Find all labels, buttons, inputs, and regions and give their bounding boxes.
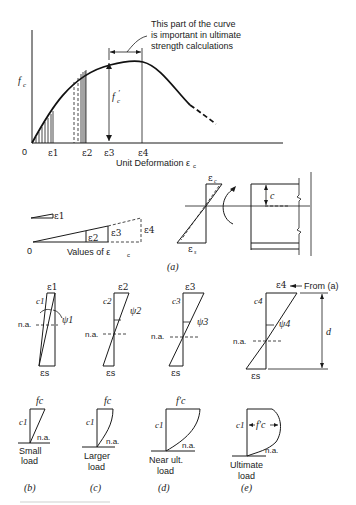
svg-text:εs: εs	[106, 368, 116, 378]
svg-text:c1: c1	[155, 420, 164, 430]
svg-text:c: c	[117, 97, 121, 105]
svg-text:c1: c1	[19, 417, 28, 427]
svg-text:c1: c1	[36, 296, 45, 306]
eps1-triangle	[31, 214, 53, 218]
values-axis-label: Values of ε	[67, 247, 110, 257]
svg-text:load: load	[157, 466, 174, 476]
svg-text:n.a.: n.a.	[37, 433, 50, 442]
svg-text:ε2: ε2	[88, 233, 98, 243]
stress-strain-curve	[32, 61, 190, 143]
strain-profile-4: ε4 From (a) c4 ψ4 n.a. εs d	[233, 280, 339, 381]
svg-text:c: c	[270, 190, 275, 201]
svg-text:ε4: ε4	[276, 280, 287, 290]
tick-eps2: ε2	[82, 148, 92, 158]
hatch-region-eps1	[36, 111, 53, 143]
svg-text:ε3: ε3	[185, 282, 196, 292]
svg-text:ε2: ε2	[118, 282, 128, 292]
x-axis-label: Unit Deformation ε	[116, 158, 190, 168]
svg-text:′: ′	[118, 89, 120, 98]
svg-text:ψ4: ψ4	[279, 318, 290, 329]
svg-text:Near ult.: Near ult.	[149, 455, 183, 465]
svg-text:c4: c4	[254, 296, 263, 306]
svg-text:n.a.: n.a.	[233, 337, 246, 346]
moment-arrow	[223, 190, 233, 224]
svg-text:f′c: f′c	[256, 419, 266, 430]
svg-text:c2: c2	[103, 296, 112, 306]
svg-text:c: c	[193, 163, 196, 169]
svg-text:f′c: f′c	[176, 395, 186, 406]
svg-text:Ultimate: Ultimate	[230, 460, 263, 470]
svg-text:s: s	[194, 249, 197, 255]
hatch-region-eps2	[74, 70, 86, 143]
svg-text:ψ2: ψ2	[130, 305, 141, 316]
stress-block-near-ultimate: f′c c1 n.a. Near ult. load (d)	[149, 395, 200, 494]
svg-text:c1: c1	[236, 420, 245, 430]
panel-a-label: (a)	[167, 261, 179, 273]
annotation-leader	[127, 36, 147, 52]
stress-block-ultimate: c1 f′c n.a. Ultimate load (e)	[230, 409, 281, 494]
svg-text:f: f	[112, 91, 116, 102]
tick-eps4: ε4	[138, 148, 149, 158]
annotation-text-1: This part of the curve	[151, 19, 236, 29]
svg-text:n.a.: n.a.	[182, 441, 195, 450]
panel-d-label: (d)	[158, 482, 170, 494]
tick-eps1: ε1	[48, 148, 58, 158]
curve-dashed-tail	[190, 105, 216, 124]
svg-text:ε4: ε4	[144, 225, 155, 235]
stress-block-small-load: fc c1 n.a. Small load (b)	[18, 395, 50, 494]
svg-text:n.a.: n.a.	[106, 437, 119, 446]
svg-text:fc: fc	[36, 395, 44, 406]
svg-text:ε: ε	[188, 244, 193, 254]
annotation-text-3: strength calculations	[151, 41, 234, 51]
svg-text:fc: fc	[104, 395, 112, 406]
svg-text:0: 0	[27, 246, 32, 256]
svg-text:ψ3: ψ3	[197, 316, 208, 327]
y-axis-label: f	[18, 75, 22, 86]
svg-text:ε1: ε1	[54, 211, 64, 221]
svg-text:c: c	[23, 81, 27, 89]
svg-text:εs: εs	[40, 368, 50, 378]
svg-text:d: d	[326, 326, 332, 337]
beam-section: ε c ε s c	[177, 172, 311, 256]
svg-text:ψ1: ψ1	[62, 314, 73, 325]
stress-strain-graph: f c f c ′	[18, 19, 283, 169]
strain-values-triangles: ε1 ε2 ε3 ε4 0 Values of ε c	[27, 211, 155, 258]
svg-text:Small: Small	[19, 446, 42, 456]
svg-text:load: load	[21, 456, 38, 466]
origin-label: 0	[22, 147, 27, 157]
strain-profile-1: ε1 c1 ψ1 n.a. εs	[18, 282, 73, 378]
svg-text:n.a.: n.a.	[151, 332, 164, 341]
panel-c-label: (c)	[90, 482, 102, 494]
from-a-label: From (a)	[304, 281, 339, 291]
annotation-text-2: is important in ultimate	[151, 30, 241, 40]
stress-block-larger-load: fc c1 n.a. Larger load (c)	[82, 395, 119, 494]
tick-eps3: ε3	[104, 148, 115, 158]
strain-profile-2: ε2 c2 ψ2 n.a. εs	[85, 282, 141, 378]
svg-text:c3: c3	[172, 296, 181, 306]
svg-text:εs: εs	[171, 368, 181, 378]
svg-text:c1: c1	[86, 417, 95, 427]
svg-text:n.a.: n.a.	[18, 320, 31, 329]
svg-text:ε: ε	[208, 173, 213, 183]
svg-text:c: c	[127, 252, 130, 258]
svg-text:n.a.: n.a.	[265, 446, 278, 455]
svg-text:c: c	[214, 178, 217, 184]
svg-text:load: load	[88, 462, 105, 472]
panel-e-label: (e)	[241, 482, 253, 494]
strain-profile-3: ε3 c3 ψ3 n.a. εs	[151, 282, 208, 378]
stress-strain-diagram: f c f c ′	[0, 0, 356, 505]
svg-text:ε3: ε3	[111, 228, 122, 238]
svg-text:n.a.: n.a.	[85, 330, 98, 339]
panel-b-label: (b)	[24, 482, 36, 494]
svg-text:εs: εs	[251, 371, 261, 381]
svg-text:load: load	[238, 471, 255, 481]
svg-text:Larger: Larger	[84, 451, 110, 461]
svg-text:ε1: ε1	[47, 282, 57, 292]
